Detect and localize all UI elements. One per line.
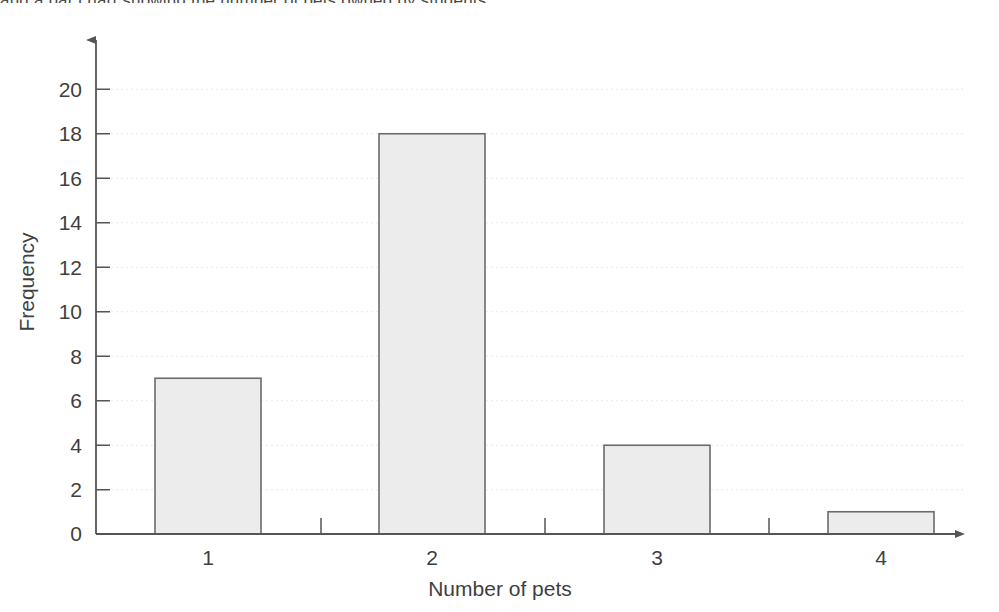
y-tick-label-18: 18 [59, 122, 82, 145]
y-tick-label-0: 0 [70, 522, 82, 545]
x-tick-label-2: 2 [426, 546, 438, 569]
bar-category-2 [379, 134, 485, 534]
y-tick-label-16: 16 [59, 167, 82, 190]
chart-canvas: 0 2 4 6 8 10 12 14 16 18 20 1 2 3 4 Numb… [0, 0, 999, 612]
y-tick-label-4: 4 [70, 434, 82, 457]
y-tick-label-6: 6 [70, 389, 82, 412]
y-axis-ticks-group [96, 89, 110, 534]
bar-chart-figure: and a bar chart showing the number of pe… [0, 0, 999, 612]
x-axis-title: Number of pets [428, 577, 572, 600]
y-tick-label-2: 2 [70, 478, 82, 501]
x-tick-label-4: 4 [875, 546, 887, 569]
x-axis-tick-labels-group: 1 2 3 4 [202, 546, 887, 569]
x-tick-label-3: 3 [651, 546, 663, 569]
y-axis-tick-labels-group: 0 2 4 6 8 10 12 14 16 18 20 [59, 78, 83, 546]
y-tick-label-14: 14 [59, 211, 83, 234]
bar-category-4 [828, 512, 934, 534]
y-tick-label-8: 8 [70, 345, 82, 368]
bar-category-3 [604, 445, 710, 534]
y-tick-label-20: 20 [59, 78, 82, 101]
clipped-caption-text: and a bar chart showing the number of pe… [0, 0, 999, 3]
x-tick-label-1: 1 [202, 546, 214, 569]
bars-group [155, 134, 934, 534]
y-tick-label-12: 12 [59, 256, 82, 279]
y-axis-title: Frequency [15, 232, 38, 332]
bar-category-1 [155, 378, 261, 534]
y-tick-label-10: 10 [59, 300, 82, 323]
